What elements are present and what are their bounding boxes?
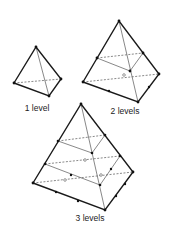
vertex-node bbox=[48, 95, 51, 98]
outline bbox=[33, 104, 133, 210]
vertex-node bbox=[60, 78, 63, 81]
outline bbox=[83, 21, 159, 102]
vertex-node bbox=[158, 73, 161, 76]
inner-edge bbox=[92, 135, 105, 153]
inner-edge bbox=[100, 156, 120, 185]
hidden-node bbox=[100, 174, 103, 177]
hidden-edge bbox=[58, 135, 105, 141]
subdivision-node bbox=[115, 195, 117, 197]
label-level-1: 1 level bbox=[25, 103, 50, 113]
subdivision-node bbox=[77, 200, 79, 202]
subdivision-node bbox=[99, 184, 102, 187]
subdivision-node bbox=[70, 174, 72, 176]
hidden-edge bbox=[33, 172, 133, 183]
subdivision-node bbox=[119, 155, 122, 158]
inner-edge bbox=[45, 164, 100, 185]
subdivision-node bbox=[57, 140, 60, 143]
hidden-node bbox=[64, 179, 67, 182]
subdivision-node bbox=[124, 183, 126, 185]
midpoint-node bbox=[129, 70, 132, 73]
vertex-node bbox=[35, 46, 38, 49]
vertex-node bbox=[118, 20, 121, 23]
vertex-node bbox=[104, 209, 107, 212]
label-level-2: 2 levels bbox=[111, 106, 140, 116]
vertex-node bbox=[32, 182, 35, 185]
vertex-node bbox=[80, 103, 83, 106]
vertex-node bbox=[137, 101, 140, 104]
subdivision-node bbox=[44, 163, 47, 166]
hidden-edge bbox=[14, 79, 61, 83]
midpoint-node bbox=[142, 52, 145, 55]
subdivision-diagram: 1 level 2 levels bbox=[0, 0, 174, 227]
outline bbox=[14, 47, 61, 96]
tetrahedron-level-1: 1 level bbox=[13, 46, 63, 113]
label-level-3: 3 levels bbox=[76, 213, 105, 223]
subdivision-node bbox=[104, 134, 107, 137]
inner-edge bbox=[130, 53, 143, 71]
subdivision-node bbox=[55, 191, 57, 193]
hidden-edge bbox=[45, 156, 120, 164]
inner-edge bbox=[58, 141, 92, 153]
vertex-node bbox=[132, 171, 135, 174]
vertex-node bbox=[82, 81, 85, 84]
hidden-edge bbox=[97, 53, 143, 58]
vertex-node bbox=[13, 82, 16, 85]
hidden-edge bbox=[83, 74, 159, 82]
hidden-node bbox=[123, 74, 126, 77]
subdivision-node bbox=[91, 152, 94, 155]
inner-edge bbox=[97, 58, 130, 71]
tetrahedron-level-2: 2 levels bbox=[82, 20, 161, 116]
midpoint-node bbox=[148, 86, 150, 88]
midpoint-node bbox=[108, 90, 110, 92]
subdivision-node bbox=[110, 168, 112, 170]
hidden-node bbox=[84, 159, 87, 162]
tetrahedron-level-3: 3 levels bbox=[32, 103, 135, 223]
midpoint-node bbox=[96, 57, 99, 60]
